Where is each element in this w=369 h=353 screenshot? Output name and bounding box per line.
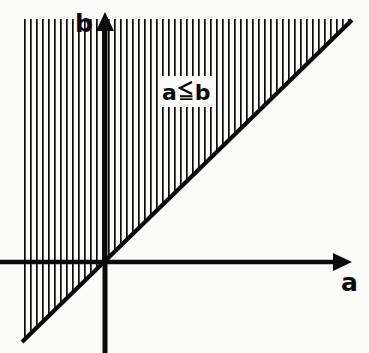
region-label: a b <box>158 76 215 107</box>
a-axis-label: a <box>341 270 358 295</box>
region-label-right-operand: b <box>195 80 211 105</box>
b-axis-label: b <box>75 11 93 36</box>
diagram-canvas <box>0 0 369 353</box>
region-label-left-operand: a <box>162 80 177 105</box>
less-than-or-equal-double-bar-icon <box>178 78 194 100</box>
inequality-diagram: b a a b <box>0 0 369 353</box>
